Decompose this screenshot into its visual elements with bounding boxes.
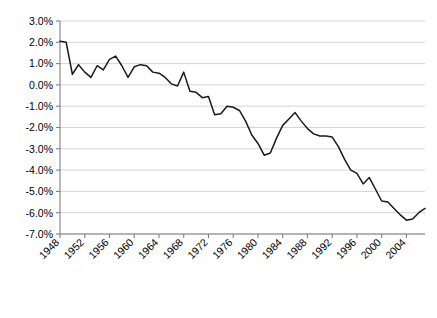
- x-tick-label: 1956: [86, 236, 111, 261]
- y-tick-label: -7.0%: [26, 228, 53, 240]
- line-chart-svg: 3.0%2.0%1.0%0.0%-1.0%-2.0%-3.0%-4.0%-5.0…: [0, 0, 437, 318]
- x-tick-label: 1996: [333, 236, 358, 261]
- x-tick-label: 1980: [234, 236, 259, 261]
- x-tick-label: 2000: [358, 236, 383, 261]
- y-tick-label: -6.0%: [26, 207, 53, 219]
- y-tick-label: 1.0%: [29, 57, 53, 69]
- x-tick-label: 1952: [61, 236, 86, 261]
- y-tick-label: -2.0%: [26, 121, 53, 133]
- y-tick-label: -1.0%: [26, 100, 53, 112]
- y-tick-label: 3.0%: [29, 15, 53, 27]
- x-tick-label: 1964: [135, 236, 160, 261]
- y-tick-label: -5.0%: [26, 185, 53, 197]
- chart-plot-area: 3.0%2.0%1.0%0.0%-1.0%-2.0%-3.0%-4.0%-5.0…: [0, 0, 437, 318]
- y-tick-label: 2.0%: [29, 36, 53, 48]
- y-tick-label: -4.0%: [26, 164, 53, 176]
- x-tick-label: 1976: [210, 236, 235, 261]
- axis-tick-marks: [56, 21, 406, 238]
- x-axis-tick-labels: 1948195219561960196419681972197619801984…: [36, 236, 408, 261]
- y-tick-label: 0.0%: [29, 79, 53, 91]
- chart-container: 3.0%2.0%1.0%0.0%-1.0%-2.0%-3.0%-4.0%-5.0…: [0, 0, 437, 318]
- x-tick-label: 1992: [309, 236, 334, 261]
- x-tick-label: 1984: [259, 236, 284, 261]
- y-tick-label: -3.0%: [26, 143, 53, 155]
- x-tick-label: 1988: [284, 236, 309, 261]
- x-tick-label: 1968: [160, 236, 185, 261]
- x-tick-label: 1972: [185, 236, 210, 261]
- chart-gridlines: [60, 21, 425, 234]
- y-axis-tick-labels: 3.0%2.0%1.0%0.0%-1.0%-2.0%-3.0%-4.0%-5.0…: [26, 15, 53, 240]
- x-tick-label: 2004: [383, 236, 408, 261]
- x-tick-label: 1960: [111, 236, 136, 261]
- data-series-line: [60, 41, 425, 220]
